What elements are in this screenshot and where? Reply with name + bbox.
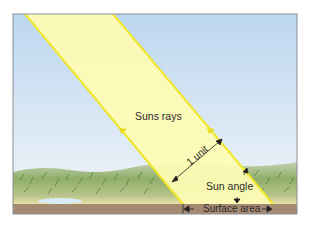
label-sun-angle: Sun angle [206, 180, 253, 192]
label-surface-area: Surface area [203, 203, 261, 214]
sun-angle-diagram: Suns rays 1 unit Sun angle Surface area [0, 0, 314, 226]
puddle [38, 198, 82, 204]
label-suns-rays: Suns rays [135, 110, 182, 122]
